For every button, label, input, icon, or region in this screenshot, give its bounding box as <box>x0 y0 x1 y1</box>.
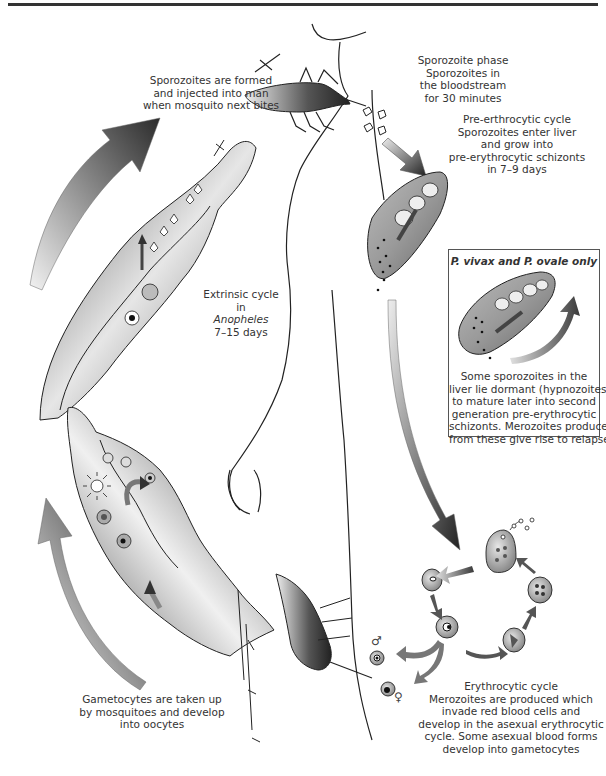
label-extrinsic-cycle: Extrinsic cycle in Anopheles 7–15 days <box>196 288 286 338</box>
liver-schizont-icon <box>368 172 448 291</box>
inset-box-description: Some sporozoites in the liver lie dorman… <box>449 370 599 445</box>
label-sporozoite-phase: Sporozoite phase Sporozoites in the bloo… <box>410 54 516 104</box>
label-erythrocytic-cycle: Erythrocytic cycle Merozoites are produc… <box>418 680 604 755</box>
label-sporozoites-formed: Sporozoites are formed and injected into… <box>136 74 286 112</box>
arrow-to-liver-icon <box>382 138 426 176</box>
label-gametocytes: Gametocytes are taken up by mosquitoes a… <box>62 693 242 731</box>
rbc-schizont-mature-icon <box>528 577 552 603</box>
mosquito-biting-icon <box>276 574 372 678</box>
inset-box-vivax-ovale: P. vivax and P. ovale only Some sporozoi… <box>448 249 600 437</box>
inset-box-title: P. vivax and P. ovale only <box>449 255 599 267</box>
female-symbol-icon: ♀ <box>394 690 403 704</box>
erythrocytic-cycle-cells <box>370 518 552 696</box>
label-pre-erythrocytic-cycle: Pre-erthrocytic cycle Sporozoites enter … <box>432 113 602 176</box>
mosquito-gut-oocyst-stage-icon <box>67 407 274 742</box>
male-symbol-icon: ♂ <box>371 634 382 648</box>
